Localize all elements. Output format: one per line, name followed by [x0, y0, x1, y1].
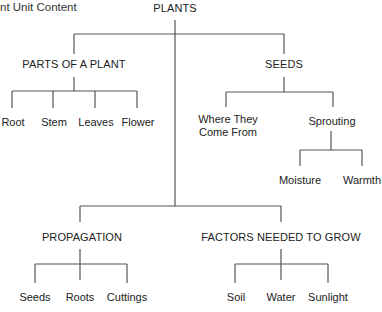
node-flower: Flower — [121, 116, 154, 128]
node-soil: Soil — [227, 291, 245, 303]
node-propagation: PROPAGATION — [42, 231, 122, 243]
node-where-they-come-from: Where They Come From — [198, 113, 258, 139]
connector-lines — [0, 0, 382, 312]
node-leaves: Leaves — [78, 116, 113, 128]
node-moisture: Moisture — [279, 174, 321, 186]
node-factors-needed-to-grow: FACTORS NEEDED TO GROW — [201, 231, 360, 243]
unit-content-title: nt Unit Content — [0, 1, 77, 13]
node-prop-cuttings: Cuttings — [107, 291, 147, 303]
node-root: Root — [1, 116, 24, 128]
node-prop-seeds: Seeds — [19, 291, 50, 303]
node-sprouting: Sprouting — [308, 115, 355, 127]
node-plants: PLANTS — [153, 2, 196, 14]
node-parts-of-a-plant: PARTS OF A PLANT — [22, 58, 125, 70]
node-water: Water — [267, 291, 296, 303]
node-stem: Stem — [41, 116, 67, 128]
node-seeds: SEEDS — [265, 58, 303, 70]
node-prop-roots: Roots — [66, 291, 95, 303]
node-sunlight: Sunlight — [308, 291, 348, 303]
node-warmth: Warmth — [343, 174, 381, 186]
